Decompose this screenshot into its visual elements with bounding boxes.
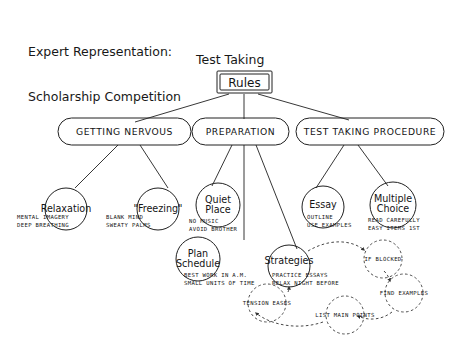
node-quiet-place-label-2: Place (205, 204, 231, 215)
node-strategies-label: Strategies (265, 255, 314, 266)
node-relaxation-detail-2: DEEP BREATHING (17, 222, 69, 228)
node-find-examples-label: FIND EXAMPLES (380, 290, 428, 296)
node-quiet-place-detail-2: AVOID BROTHER (189, 226, 238, 232)
concept-map: Rules GETTING NERVOUS PREPARATION TEST T… (0, 0, 454, 345)
node-essay-detail-1: OUTLINE (307, 214, 333, 220)
node-getting-nervous[interactable]: GETTING NERVOUS (58, 118, 191, 145)
flow-if-blocked-to-find-examples (384, 271, 390, 281)
node-multiple-choice-detail-2: EASY ITEMS 1ST (368, 225, 420, 231)
node-preparation-label: PREPARATION (206, 126, 276, 137)
node-plan-schedule-detail-2: SMALL UNITS OF TIME (184, 280, 255, 286)
edge-rules-to-test-taking-procedure (258, 94, 349, 120)
node-relaxation[interactable]: Relaxation MENTAL IMAGERY DEEP BREATHING (17, 188, 91, 230)
node-if-blocked[interactable]: IF BLOCKED (364, 240, 402, 278)
edge-preparation-to-strategies (256, 145, 297, 249)
node-rules-label: Rules (228, 76, 260, 90)
node-rules[interactable]: Rules (217, 71, 272, 93)
node-test-taking-procedure[interactable]: TEST TAKING PROCEDURE (296, 118, 444, 145)
node-strategies-detail-2: RELAX NIGHT BEFORE (272, 280, 339, 286)
node-getting-nervous-label: GETTING NERVOUS (76, 126, 173, 137)
node-plan-schedule-label-2: Schedule (176, 258, 220, 269)
node-freezing-detail-2: SWEATY PALMS (106, 222, 151, 228)
node-freezing-detail-1: BLANK MIND (106, 214, 143, 220)
node-essay-detail-2: USE EXAMPLES (307, 222, 352, 228)
node-tension-eases[interactable]: TENSION EASES (243, 284, 291, 322)
flow-list-main-points-to-tension-eases (256, 313, 323, 326)
node-plan-schedule[interactable]: Plan Schedule BEST WORK IN A.M. SMALL UN… (176, 237, 255, 286)
node-multiple-choice-label-2: Choice (377, 203, 410, 214)
node-multiple-choice[interactable]: Multiple Choice READ CAREFULLY EASY ITEM… (368, 182, 420, 231)
node-essay-label: Essay (309, 199, 337, 210)
node-list-main-points-label: LIST MAIN POINTS (315, 312, 374, 318)
node-if-blocked-label: IF BLOCKED (364, 256, 401, 262)
node-strategies-detail-1: PRACTICE ESSAYS (272, 272, 328, 278)
node-freezing[interactable]: "Freezing" BLANK MIND SWEATY PALMS (106, 188, 183, 230)
flow-strategies-to-if-blocked (308, 242, 364, 251)
edge-test-taking-to-multiple-choice (358, 145, 388, 186)
node-relaxation-detail-1: MENTAL IMAGERY (17, 214, 69, 220)
edge-getting-nervous-to-relaxation (75, 145, 118, 188)
node-freezing-label: "Freezing" (133, 203, 182, 214)
node-quiet-place[interactable]: Quiet Place NO MUSIC AVOID BROTHER (189, 183, 240, 232)
flow-tension-eases-to-strategies (288, 287, 289, 292)
node-multiple-choice-detail-1: READ CAREFULLY (368, 217, 420, 223)
edge-test-taking-to-essay (316, 145, 344, 188)
node-plan-schedule-detail-1: BEST WORK IN A.M. (184, 272, 247, 278)
node-list-main-points[interactable]: LIST MAIN POINTS (315, 296, 374, 334)
node-preparation[interactable]: PREPARATION (192, 118, 289, 145)
node-find-examples[interactable]: FIND EXAMPLES (380, 274, 428, 312)
node-strategies[interactable]: Strategies PRACTICE ESSAYS RELAX NIGHT B… (265, 245, 340, 287)
node-test-taking-procedure-label: TEST TAKING PROCEDURE (303, 126, 437, 137)
edge-getting-nervous-to-freezing (140, 145, 168, 188)
node-relaxation-label: Relaxation (41, 203, 92, 214)
node-tension-eases-label: TENSION EASES (243, 300, 291, 306)
node-essay[interactable]: Essay OUTLINE USE EXAMPLES (302, 186, 352, 228)
node-quiet-place-detail-1: NO MUSIC (189, 218, 219, 224)
edge-preparation-to-quiet-place (212, 145, 232, 186)
